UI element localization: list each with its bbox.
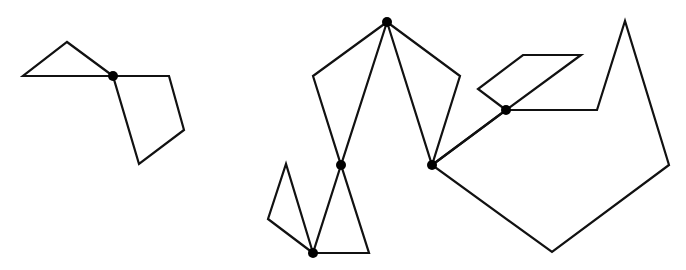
block-triangle-lower-middle (313, 165, 369, 253)
block-triangle-lower-left (268, 164, 313, 253)
cut-vertex-dot (382, 17, 392, 27)
edges-layer (23, 21, 669, 253)
cut-vertex-dot (427, 160, 437, 170)
cut-vertex-dot (308, 248, 318, 258)
graph-right (268, 21, 669, 253)
cut-vertex-dot (108, 71, 118, 81)
block-triangle (23, 42, 113, 76)
cut-vertex-dot (336, 160, 346, 170)
cut-vertices-layer (108, 17, 511, 258)
block-quadrilateral (113, 76, 184, 164)
block-quad-upper-left (313, 22, 387, 165)
block-graph-diagram (0, 0, 686, 270)
block-parallelogram (478, 55, 581, 110)
block-quad-upper-right (387, 22, 460, 165)
cut-vertex-dot (501, 105, 511, 115)
graph-left (23, 42, 184, 164)
